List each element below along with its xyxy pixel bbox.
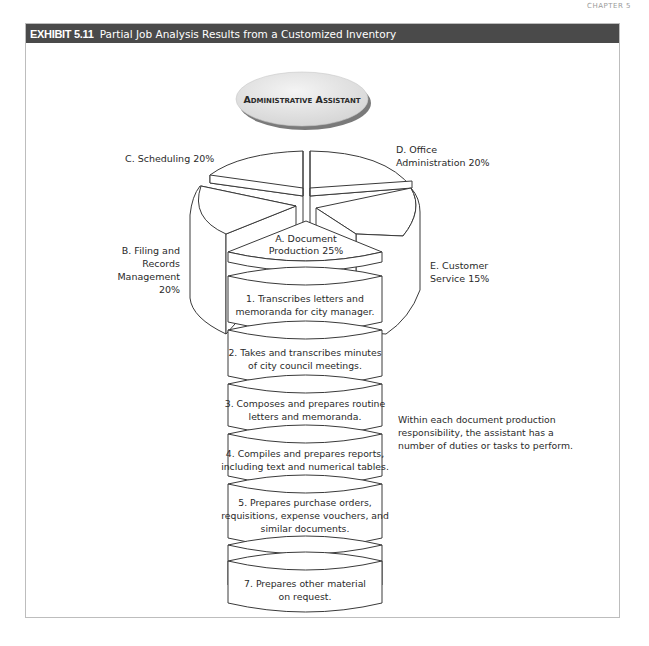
task-1-line-2: memoranda for city manager. — [236, 306, 375, 317]
segment-e-label-1: E. Customer — [430, 260, 488, 271]
explanatory-note: Within each document production responsi… — [398, 413, 588, 452]
segment-c-label: C. Scheduling 20% — [125, 153, 214, 164]
task-5-line-2: requisitions, expense vouchers, and — [221, 510, 389, 521]
segment-e-label-2: Service 15% — [430, 273, 489, 284]
segment-b-label-1: B. Filing and — [122, 245, 180, 256]
root-label: Administrative Assistant — [243, 94, 360, 105]
segment-a-label-2: Production 25% — [269, 245, 344, 256]
task-disc-6: 6. Prepares proclamations, press release… — [228, 536, 382, 594]
task-3-line-1: 3. Composes and prepares routine — [225, 398, 386, 409]
task-6-line-2: releases, and similar material. — [235, 571, 376, 582]
task-3-line-2: letters and memoranda. — [249, 411, 362, 422]
task-2-line-1: 2. Takes and transcribes minutes — [228, 347, 381, 358]
segment-b-label-4: 20% — [159, 284, 180, 295]
task-4-line-1: 4. Compiles and prepares reports, — [226, 448, 384, 459]
task-4-line-2: including text and numerical tables. — [221, 461, 389, 472]
segment-d-label-1: D. Office — [396, 144, 437, 155]
task-5-line-3: similar documents. — [261, 523, 350, 534]
task-1-line-1: 1. Transcribes letters and — [246, 293, 364, 304]
segment-b-label-2: Records — [142, 258, 180, 269]
segment-d-label-2: Administration 20% — [396, 157, 490, 168]
root-oval: Administrative Assistant — [236, 72, 371, 130]
segment-b-label-3: Management — [117, 271, 180, 282]
job-analysis-diagram: Administrative Assistant A. Document Pro… — [0, 0, 649, 646]
task-stack: 1. Transcribes letters and memoranda for… — [221, 267, 389, 594]
task-5-line-1: 5. Prepares purchase orders, — [238, 497, 372, 508]
segment-a-label-1: A. Document — [275, 233, 337, 244]
task-6-line-1: 6. Prepares proclamations, press — [229, 558, 381, 569]
slice-scheduling — [210, 151, 303, 196]
task-2-line-2: of city council meetings. — [248, 360, 362, 371]
